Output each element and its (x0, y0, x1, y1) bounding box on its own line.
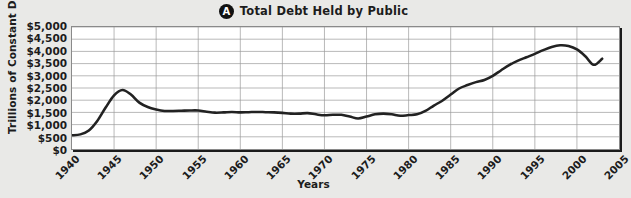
x-axis-title: Years (0, 178, 627, 190)
y-tick-label: $4,000 (26, 46, 67, 57)
series-line-total-debt (72, 45, 602, 135)
y-tick-label: $1,000 (26, 120, 67, 131)
page-title: Total Debt Held by Public (240, 4, 408, 18)
y-tick-label: $3,000 (26, 70, 67, 81)
y-tick-label: $2,500 (26, 83, 67, 94)
y-tick-label: $4,500 (26, 33, 67, 44)
panel-badge-icon: A (219, 4, 234, 19)
plot-area (71, 26, 620, 150)
y-tick-label: $2,000 (26, 95, 67, 106)
y-tick-label: $0 (52, 145, 67, 156)
y-tick-label: $1,500 (26, 108, 67, 119)
y-axis-tick-labels: $0$500$1,000$1,500$2,000$2,500$3,000$3,5… (14, 21, 69, 151)
horizontal-gridlines (72, 27, 619, 137)
line-chart-svg (72, 27, 619, 149)
y-tick-label: $3,500 (26, 58, 67, 69)
chart-header: A Total Debt Held by Public (0, 1, 627, 21)
y-tick-label: $5,000 (26, 21, 67, 32)
y-tick-label: $500 (38, 132, 67, 143)
